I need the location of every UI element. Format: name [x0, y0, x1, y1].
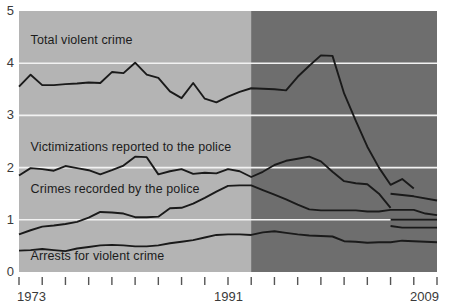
x-axis-label-1973: 1973: [17, 290, 46, 303]
series-label-0: Total violent crime: [31, 33, 133, 47]
y-axis-label-2: 2: [0, 161, 14, 174]
y-axis-label-4: 4: [0, 56, 14, 69]
x-axis-label-1991: 1991: [214, 290, 243, 303]
series-label-3: Arrests for violent crime: [31, 249, 165, 263]
y-axis-label-5: 5: [0, 4, 14, 17]
series-label-1: Victimizations reported to the police: [31, 140, 232, 154]
x-axis-label-2009: 2009: [410, 290, 439, 303]
x-axis-ticks: [19, 277, 437, 285]
y-axis-label-3: 3: [0, 108, 14, 121]
y-axis-label-0: 0: [0, 265, 14, 278]
y-axis-label-1: 1: [0, 213, 14, 226]
series-label-2: Crimes recorded by the police: [31, 182, 200, 196]
crime-trends-chart: 012345 197319912009 Total violent crimeV…: [0, 0, 450, 308]
